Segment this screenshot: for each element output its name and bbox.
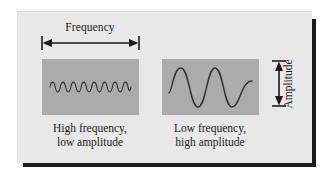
low-frequency-wave-icon <box>162 59 259 115</box>
wave-panel-high-frequency <box>42 59 139 115</box>
amplitude-label-text: Amplitude <box>282 55 294 113</box>
caption-low-frequency-line2: high amplitude <box>150 136 270 150</box>
caption-high-frequency: High frequency, low amplitude <box>30 122 150 149</box>
caption-low-frequency: Low frequency, high amplitude <box>150 122 270 149</box>
amplitude-label: Amplitude <box>282 0 296 55</box>
high-frequency-wave-icon <box>42 59 139 115</box>
caption-low-frequency-line1: Low frequency, <box>150 122 270 136</box>
frequency-measure-arrow <box>40 35 141 51</box>
double-arrow-horizontal-icon <box>40 35 141 51</box>
frequency-label: Frequency <box>42 21 138 33</box>
caption-high-frequency-line1: High frequency, <box>30 122 150 136</box>
wave-panel-low-frequency <box>162 59 259 115</box>
figure-root: Frequency Amplitude High freq <box>0 0 332 179</box>
caption-high-frequency-line2: low amplitude <box>30 136 150 150</box>
